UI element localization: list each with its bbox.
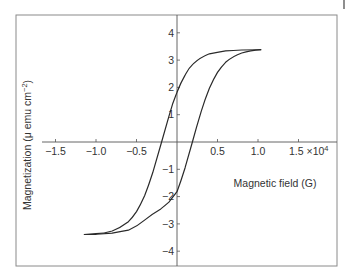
y-tick-label: −2 (162, 190, 174, 202)
x-tick-label: 0.5 (210, 145, 225, 157)
plot-frame (16, 15, 337, 266)
y-tick-label: −3 (162, 218, 174, 230)
x-tick-labels: −1.5 −1.0 −0.5 0.5 1.0 1.5 ×104 (45, 144, 328, 157)
y-tick-label: 4 (168, 27, 174, 39)
x-tick-label: 1.0 (251, 145, 266, 157)
y-axis-title: Magnetization (μ emu cm−2) (20, 80, 33, 210)
x-tick-label-exponent: 1.5 ×104 (289, 144, 329, 157)
y-tick-label: 2 (168, 81, 174, 93)
x-tick-label: −1.0 (86, 145, 107, 157)
y-tick-label: −1 (162, 163, 174, 175)
x-axis-title: Magnetic field (G) (234, 177, 317, 189)
y-tick-label: −4 (162, 245, 174, 257)
y-tick-label: 3 (168, 54, 174, 66)
hysteresis-chart: −1.5 −1.0 −0.5 0.5 1.0 1.5 ×104 4 3 2 1 … (0, 0, 356, 278)
x-tick-label: −0.5 (126, 145, 147, 157)
x-tick-label: −1.5 (45, 145, 66, 157)
